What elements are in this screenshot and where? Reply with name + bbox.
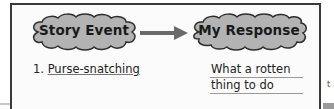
my-response-label: My Response xyxy=(189,22,309,38)
cropped-text-fragment: t xyxy=(327,80,330,89)
story-event-node: Story Event xyxy=(28,12,140,52)
response-line-2: thing to do xyxy=(210,78,303,94)
story-event-label: Story Event xyxy=(28,22,140,38)
page-edge-bar xyxy=(323,103,334,109)
entry-event-text: Purse-snatching xyxy=(48,62,140,76)
entry-number: 1. xyxy=(33,62,44,76)
response-line-1: What a rotten xyxy=(210,62,303,78)
arrow-right-icon xyxy=(140,25,190,41)
my-response-node: My Response xyxy=(189,12,309,52)
story-event-entry: 1. Purse-snatching xyxy=(33,62,140,76)
